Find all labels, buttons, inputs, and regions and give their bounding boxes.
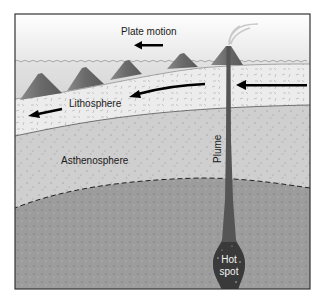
hot-spot-label-line1: Hot — [216, 254, 242, 266]
plume-label: Plume — [212, 135, 223, 163]
hot-spot-label: Hot spot — [216, 254, 242, 278]
hotspot-diagram: Plate motion Lithosphere Asthenosphere P… — [0, 0, 321, 304]
asthenosphere-label: Asthenosphere — [61, 155, 128, 166]
sky — [15, 14, 310, 64]
plate-motion-label: Plate motion — [121, 26, 177, 37]
hot-spot-label-line2: spot — [216, 266, 242, 278]
lithosphere-label: Lithosphere — [69, 98, 121, 109]
